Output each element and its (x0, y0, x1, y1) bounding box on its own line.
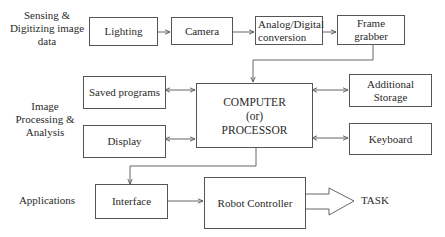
stage-label-line: Analysis (26, 126, 65, 138)
stage-label-line: data (38, 35, 56, 47)
block-keyboard: Keyboard (349, 123, 432, 155)
block-label: Keyboard (369, 133, 412, 146)
block-display: Display (83, 125, 166, 158)
block-camera: Camera (171, 17, 233, 45)
block-additional-storage: Additional Storage (349, 74, 432, 107)
block-frame-grabber: Frame grabber (337, 15, 405, 45)
block-label: COMPUTER (222, 95, 288, 109)
stage-label-applications: Applications (14, 194, 80, 207)
task-text: TASK (361, 194, 389, 206)
stage-label-sensing: Sensing & Digitizing image data (8, 9, 86, 48)
stage-label-line: Digitizing image (10, 22, 84, 34)
block-label: Storage (367, 91, 414, 104)
block-label: Robot Controller (218, 197, 293, 210)
block-label: Lighting (105, 25, 143, 38)
block-robot-controller: Robot Controller (204, 177, 306, 229)
block-label: conversion (258, 31, 324, 44)
block-lighting: Lighting (89, 17, 158, 46)
block-label: Additional (367, 78, 414, 91)
block-label: Frame (354, 17, 388, 30)
block-label: grabber (354, 30, 388, 43)
block-adc: Analog/Digital conversion (255, 16, 323, 45)
stage-label-line: Processing & (16, 113, 75, 125)
task-label: TASK (361, 194, 391, 207)
block-label: PROCESSOR (222, 123, 288, 137)
block-interface: Interface (95, 184, 168, 219)
block-saved-programs: Saved programs (83, 76, 166, 109)
stage-label-line: Sensing & (24, 9, 70, 21)
block-label: Interface (112, 195, 151, 208)
block-label: Display (107, 135, 141, 148)
stage-label-line: Image (31, 100, 58, 112)
block-label: Saved programs (89, 86, 160, 99)
block-label: Analog/Digital (258, 18, 324, 31)
block-label: (or) (222, 109, 288, 123)
block-computer: COMPUTER (or) PROCESSOR (196, 83, 313, 148)
big-arrow-task (305, 188, 354, 215)
block-label: Camera (185, 25, 219, 38)
stage-label-processing: Image Processing & Analysis (10, 100, 80, 139)
stage-label-line: Applications (19, 194, 75, 206)
